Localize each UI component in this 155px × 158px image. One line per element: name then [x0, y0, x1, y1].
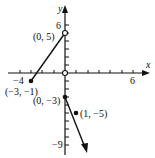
point-label-1-neg5: (1, −5) [80, 108, 107, 120]
ray-arrow-icon [81, 143, 88, 153]
open-point-origin [63, 71, 68, 76]
y-tick-label-neg9: −9 [52, 139, 63, 150]
y-axis-label: y [57, 3, 63, 14]
closed-point-neg3-neg1 [29, 79, 34, 84]
graph-figure: y x 6 −4 6 −9 (0, 5) (−3, −1) (0, −3) (1… [0, 0, 155, 158]
x-tick-label-neg4: −4 [13, 75, 24, 86]
y-tick-label-6: 6 [56, 20, 61, 31]
point-label-0-5: (0, 5) [33, 31, 55, 43]
ray-line [65, 97, 86, 150]
point-label-0-neg3: (0, −3) [33, 95, 60, 107]
point-1-neg5 [74, 111, 79, 116]
open-point-0-5 [63, 31, 68, 36]
x-tick-label-6: 6 [130, 75, 135, 86]
y-axis-arrow-icon [62, 5, 68, 13]
x-axis-label: x [145, 59, 151, 70]
x-axis-arrow-icon [142, 70, 150, 76]
closed-point-0-neg3 [63, 95, 68, 100]
piecewise-graph: y x 6 −4 6 −9 (0, 5) (−3, −1) (0, −3) (1… [0, 0, 155, 158]
